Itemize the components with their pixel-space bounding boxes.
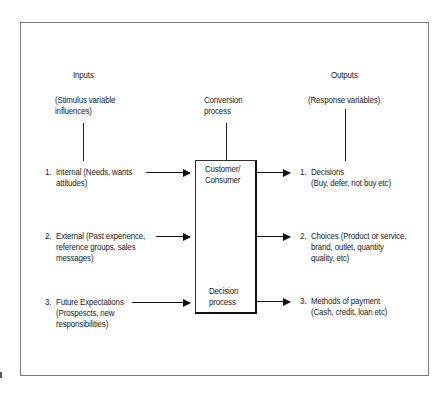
input-1-number: 1. xyxy=(45,167,51,178)
inputs-title: Inputs xyxy=(73,70,94,81)
box-top-label-line2: Consumer xyxy=(205,175,240,186)
input-3-number: 3. xyxy=(45,297,51,308)
input-1-line2: attitudes) xyxy=(56,178,87,189)
box-bottom-label-line2: process xyxy=(209,297,236,308)
outputs-title: Outputs xyxy=(331,70,358,81)
output-1-line2: (Buy, defer, not buy etc) xyxy=(311,178,391,189)
inputs-connector-line xyxy=(83,123,84,161)
conversion-title-line2: process xyxy=(204,106,231,117)
output-2-line3: quality, etc) xyxy=(311,253,349,264)
output-3-line1: Methods of payment xyxy=(311,296,380,307)
input-1-line1: Internal (Needs, wants xyxy=(56,167,132,178)
output-2-line1: Choices (Product or service, xyxy=(311,231,406,242)
outputs-subtitle: (Response variables) xyxy=(308,95,380,106)
conversion-title-line1: Conversion xyxy=(204,95,243,106)
box-bottom-label-line1: Decision xyxy=(209,286,238,297)
output-1-number: 1. xyxy=(300,167,306,178)
output-1-line1: Decisions xyxy=(311,167,344,178)
input-2-line2: reference groups, sales xyxy=(56,242,135,253)
input-2-arrow xyxy=(156,236,190,237)
outputs-connector-line xyxy=(345,109,346,161)
output-3-arrow xyxy=(257,301,290,302)
input-3-arrow xyxy=(132,302,190,303)
input-3-line1: Future Expectations xyxy=(56,297,124,308)
input-3-line3: responsibilities) xyxy=(56,319,108,330)
output-3-line2: (Cash, credit, loan etc) xyxy=(311,307,387,318)
output-1-arrow xyxy=(257,172,290,173)
input-2-number: 2. xyxy=(45,231,51,242)
conversion-connector-line xyxy=(226,123,227,160)
inputs-subtitle-line2: influences) xyxy=(55,106,92,117)
scan-artifact xyxy=(0,372,2,378)
output-2-arrow xyxy=(257,236,290,237)
input-3-line2: (Prospescts, new xyxy=(56,308,114,319)
box-top-label-line1: Customer/ xyxy=(205,164,240,175)
input-2-line1: External (Past experience, xyxy=(56,231,145,242)
output-2-line2: brand, outlet, quantity xyxy=(311,242,384,253)
input-1-arrow xyxy=(146,172,190,173)
output-2-number: 2. xyxy=(300,231,306,242)
inputs-subtitle-line1: (Stimulus variable xyxy=(55,95,115,106)
input-2-line3: messages) xyxy=(56,253,93,264)
output-3-number: 3. xyxy=(300,296,306,307)
